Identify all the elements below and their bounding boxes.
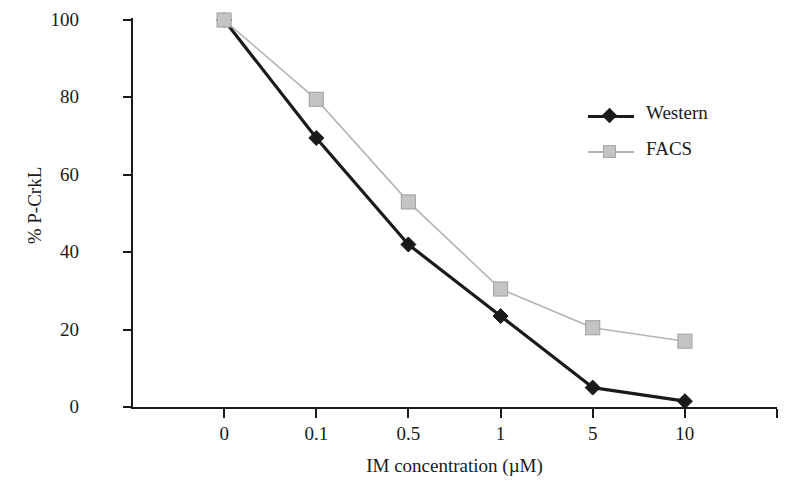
legend-item-facs[interactable]: FACS xyxy=(588,134,738,170)
y-tick-mark xyxy=(123,174,132,176)
y-tick-mark xyxy=(123,19,132,21)
legend-swatch-facs xyxy=(588,143,634,161)
data-point-square xyxy=(217,13,231,27)
y-tick-label: 0 xyxy=(19,397,79,416)
y-tick-label: 80 xyxy=(19,87,79,106)
y-tick-mark xyxy=(123,251,132,253)
x-tick-label: 0.1 xyxy=(276,424,356,444)
data-point-square xyxy=(494,282,508,296)
diamond-marker-icon xyxy=(602,108,618,124)
y-tick-mark xyxy=(123,96,132,98)
legend-swatch-western xyxy=(588,107,634,125)
legend-item-western[interactable]: Western xyxy=(588,98,738,134)
y-tick-mark xyxy=(123,329,132,331)
data-point-diamond xyxy=(493,309,508,324)
x-tick-mark xyxy=(223,409,225,418)
x-tick-mark xyxy=(407,409,409,418)
x-tick-label: 10 xyxy=(645,424,725,444)
series-plot xyxy=(0,0,797,485)
x-tick-mark xyxy=(315,409,317,418)
series-line-facs xyxy=(224,20,685,341)
x-tick-label: 5 xyxy=(553,424,633,444)
square-marker-icon xyxy=(603,145,616,158)
x-tick-label: 0.5 xyxy=(368,424,448,444)
y-tick-label: 20 xyxy=(19,320,79,339)
y-axis-spine xyxy=(131,18,133,409)
legend-label-western: Western xyxy=(646,102,708,124)
chart-legend: Western FACS xyxy=(588,98,738,170)
data-point-diamond xyxy=(217,13,232,28)
x-tick-mark xyxy=(684,409,686,418)
data-point-square xyxy=(678,334,692,348)
y-axis-title: % P-CrkL xyxy=(24,106,45,306)
chart-page: 020406080100 00.10.51510 % P-CrkL IM con… xyxy=(0,0,797,485)
x-tick-mark xyxy=(592,409,594,418)
x-tick-mark xyxy=(500,409,502,418)
x-axis-spine xyxy=(131,407,777,409)
x-tick-label: 1 xyxy=(461,424,541,444)
x-tick-label: 0 xyxy=(184,424,264,444)
legend-label-facs: FACS xyxy=(646,138,692,160)
y-tick-label: 100 xyxy=(19,10,79,29)
data-point-diamond xyxy=(309,131,324,146)
data-point-diamond xyxy=(585,380,600,395)
x-tick-mark xyxy=(776,409,778,418)
data-point-square xyxy=(586,321,600,335)
x-axis-title: IM concentration (µM) xyxy=(132,455,777,476)
data-point-diamond xyxy=(401,237,416,252)
series-line-western xyxy=(224,20,685,401)
y-tick-mark xyxy=(123,406,132,408)
data-point-square xyxy=(401,195,415,209)
data-point-square xyxy=(309,92,323,106)
